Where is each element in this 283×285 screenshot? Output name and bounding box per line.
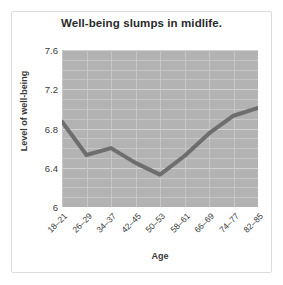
x-tick-label: 74–77 bbox=[217, 211, 241, 235]
x-tick-label: 50–53 bbox=[143, 211, 167, 235]
x-tick-label: 26–29 bbox=[70, 211, 94, 235]
x-axis-title: Age bbox=[62, 251, 258, 261]
data-line bbox=[62, 50, 258, 207]
x-tick-label: 42–45 bbox=[119, 211, 143, 235]
chart-figure: Well-being slumps in midlife. Level of w… bbox=[0, 0, 283, 285]
y-tick-label: 6.4 bbox=[24, 162, 58, 173]
plot-area bbox=[62, 50, 258, 207]
chart-title: Well-being slumps in midlife. bbox=[0, 17, 283, 29]
x-tick-label: 34–37 bbox=[94, 211, 118, 235]
y-tick-label: 6 bbox=[24, 202, 58, 213]
x-tick-label: 66–69 bbox=[192, 211, 216, 235]
y-tick-label: 6.8 bbox=[24, 123, 58, 134]
y-axis-tick-labels: 66.46.87.27.6 bbox=[22, 50, 58, 207]
x-tick-label: 58–61 bbox=[168, 211, 192, 235]
x-axis-tick-labels: 18–2126–2934–3742–4550–5358–6166–6974–77… bbox=[62, 207, 258, 253]
y-tick-label: 7.2 bbox=[24, 84, 58, 95]
y-tick-label: 7.6 bbox=[24, 45, 58, 56]
